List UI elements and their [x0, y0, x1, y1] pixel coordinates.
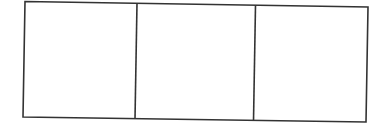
background [0, 0, 385, 126]
three-panel-diagram [0, 0, 385, 126]
